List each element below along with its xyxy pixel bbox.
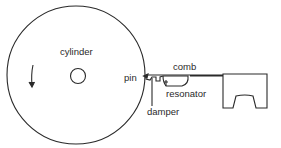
music-box-mechanism-diagram: cylinder pin comb resonator damper: [0, 0, 281, 148]
resonator-label: resonator: [166, 89, 206, 99]
comb-shape: [146, 74, 267, 108]
pin-label: pin: [124, 73, 137, 83]
damper-label: damper: [147, 107, 179, 117]
cylinder-label: cylinder: [60, 47, 93, 57]
diagram-canvas: [0, 0, 281, 148]
comb-label: comb: [173, 62, 196, 72]
axle-circle: [71, 69, 86, 84]
rotation-arrow-icon: [29, 65, 35, 87]
